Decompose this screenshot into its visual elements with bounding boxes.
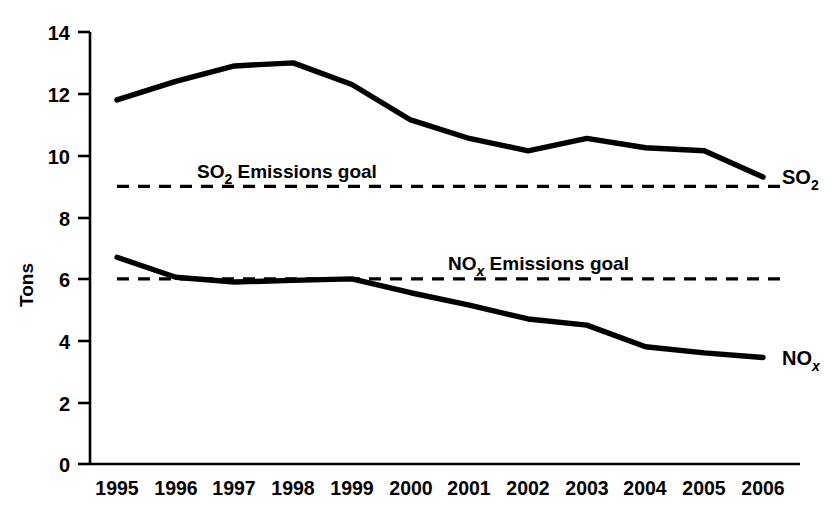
y-tick-label-6: 6 bbox=[59, 269, 70, 291]
x-tick-label-2002: 2002 bbox=[506, 477, 550, 499]
so2-goal-label-sub: 2 bbox=[224, 171, 232, 187]
x-tick-label-2003: 2003 bbox=[565, 477, 609, 499]
so2-series-label-sub: 2 bbox=[811, 177, 819, 193]
so2-goal-label-rest: Emissions goal bbox=[232, 161, 377, 182]
x-tick-label-1997: 1997 bbox=[212, 477, 255, 499]
nox-series-label-sub: x bbox=[811, 358, 821, 374]
y-axis-title: Tons bbox=[16, 263, 37, 307]
y-tick-label-12: 12 bbox=[48, 84, 70, 106]
x-tick-label-1996: 1996 bbox=[154, 477, 198, 499]
so2-series-label-main: SO bbox=[782, 166, 811, 188]
emissions-line-chart: 14 12 10 8 6 4 2 0 Tons 1995 1996 1997 1… bbox=[0, 0, 835, 517]
x-tick-label-2006: 2006 bbox=[741, 477, 785, 499]
nox-series-label-main: NO bbox=[782, 347, 812, 369]
x-tick-label-2005: 2005 bbox=[682, 477, 726, 499]
so2-goal-label-main: SO bbox=[197, 161, 224, 182]
y-tick-label-4: 4 bbox=[59, 331, 71, 353]
x-tick-label-2000: 2000 bbox=[389, 477, 433, 499]
y-tick-label-10: 10 bbox=[48, 146, 70, 168]
y-tick-label-8: 8 bbox=[59, 208, 70, 230]
x-tick-label-1995: 1995 bbox=[95, 477, 139, 499]
x-tick-label-1999: 1999 bbox=[330, 477, 374, 499]
y-tick-label-14: 14 bbox=[48, 22, 71, 44]
x-tick-label-2001: 2001 bbox=[447, 477, 491, 499]
y-tick-label-0: 0 bbox=[59, 454, 70, 476]
x-tick-label-2004: 2004 bbox=[623, 477, 667, 499]
chart-container: 14 12 10 8 6 4 2 0 Tons 1995 1996 1997 1… bbox=[0, 0, 835, 517]
y-tick-label-2: 2 bbox=[59, 393, 70, 415]
nox-goal-label-main: NO bbox=[448, 253, 477, 274]
x-tick-label-1998: 1998 bbox=[271, 477, 315, 499]
nox-goal-label-rest: Emissions goal bbox=[484, 253, 629, 274]
